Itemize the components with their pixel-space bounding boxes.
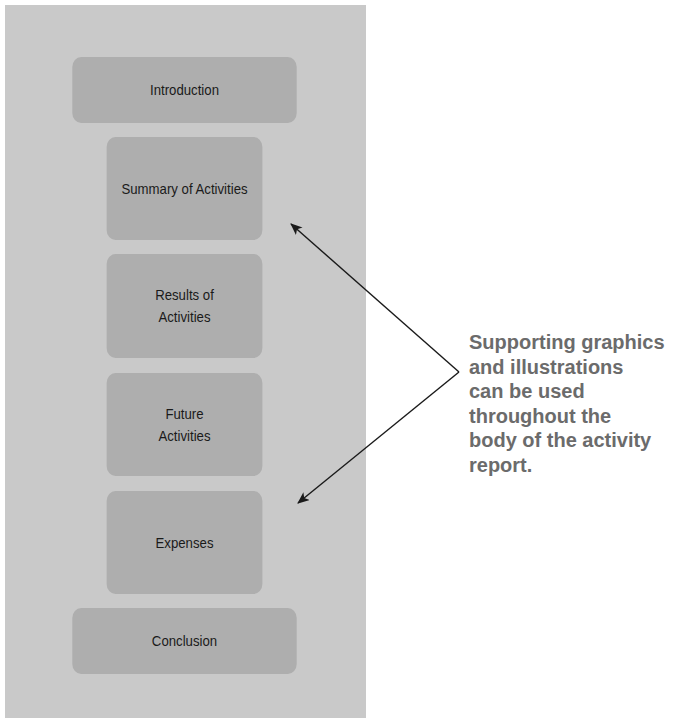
arrow-to-expenses — [298, 372, 459, 503]
arrow-to-summary — [291, 224, 459, 372]
callout-text: Supporting graphics and illustrations ca… — [469, 330, 695, 477]
